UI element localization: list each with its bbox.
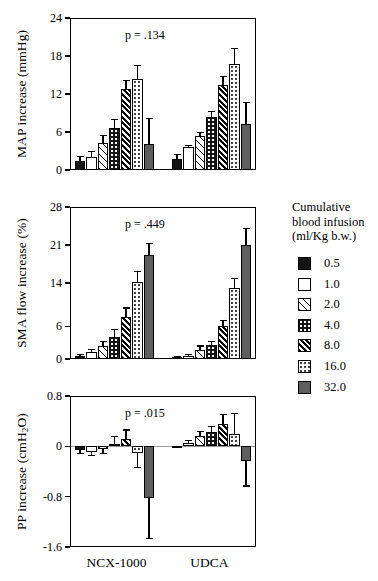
legend-label: 1.0 [324, 277, 340, 292]
error-bar-cap [208, 426, 215, 427]
y-axis-title-bottom: PP increase (cmH2O) [14, 413, 30, 530]
error-bar-cap [174, 447, 181, 448]
legend-label: 16.0 [324, 359, 346, 374]
bar [229, 434, 240, 447]
error-bar-cap [185, 440, 192, 441]
legend-swatch-32.0 [298, 381, 311, 394]
bar [132, 446, 143, 453]
y-tickmark [65, 546, 70, 547]
error-bar [245, 461, 246, 486]
legend-swatch-2.0 [298, 298, 311, 311]
bar [183, 443, 194, 447]
bar [218, 424, 229, 446]
error-bar-cap [243, 485, 250, 486]
bar [109, 444, 120, 447]
error-bar-cap [111, 436, 118, 437]
legend-title-line: blood infusion [292, 215, 378, 230]
legend-label: 2.0 [324, 297, 340, 312]
error-bar-cap [123, 429, 130, 430]
bar [241, 446, 252, 460]
legend-label: 8.0 [324, 338, 340, 353]
figure-root: 06121824MAP increase (mmHg)p = .13406142… [0, 0, 378, 581]
x-category-label: UDCA [165, 555, 255, 571]
legend-title-line: (ml/Kg b.w.) [292, 229, 378, 244]
error-bar [222, 414, 223, 424]
legend-swatch-0.5 [298, 257, 311, 270]
y-tickmark [65, 446, 70, 447]
error-bar-cap [146, 538, 153, 539]
error-bar [125, 430, 126, 439]
error-bar [137, 453, 138, 467]
legend-item: 8.0 [298, 338, 378, 354]
error-bar-cap [100, 453, 107, 454]
legend-item: 16.0 [298, 359, 378, 375]
bar [121, 439, 132, 447]
error-bar-cap [197, 431, 204, 432]
x-category-label: NCX-1000 [72, 555, 162, 571]
error-bar [211, 427, 212, 433]
legend-label: 4.0 [324, 318, 340, 333]
legend-swatch-4.0 [298, 319, 311, 332]
error-bar [148, 498, 149, 539]
bar [144, 446, 155, 498]
bar [195, 436, 206, 446]
legend-swatch-8.0 [298, 339, 311, 352]
legend-swatch-16.0 [298, 360, 311, 373]
legend-container: Cumulativeblood infusion(ml/Kg b.w.)0.51… [292, 200, 378, 244]
error-bar-cap [220, 414, 227, 415]
legend-swatch-1.0 [298, 278, 311, 291]
bar [206, 432, 217, 446]
error-bar-cap [77, 453, 84, 454]
legend-label: 0.5 [324, 256, 340, 271]
legend-item: 2.0 [298, 297, 378, 313]
y-tick-label: -1.6 [30, 540, 62, 555]
error-bar [114, 436, 115, 444]
legend-label: 32.0 [324, 380, 346, 395]
legend-item: 4.0 [298, 318, 378, 334]
legend-item: 0.5 [298, 256, 378, 272]
y-tick-label: 0.8 [30, 389, 62, 404]
error-bar [234, 414, 235, 434]
legend-item: 1.0 [298, 277, 378, 293]
y-tick-label: -0.8 [30, 489, 62, 504]
error-bar-cap [88, 455, 95, 456]
error-bar-cap [231, 413, 238, 414]
y-tickmark [65, 496, 70, 497]
error-bar [199, 432, 200, 436]
p-value-annotation-bottom: p = .015 [125, 406, 165, 421]
y-tickmark [65, 395, 70, 396]
legend-title-line: Cumulative [292, 200, 378, 215]
error-bar-cap [134, 467, 141, 468]
y-tick-label: 0 [30, 439, 62, 454]
legend-item: 32.0 [298, 380, 378, 396]
